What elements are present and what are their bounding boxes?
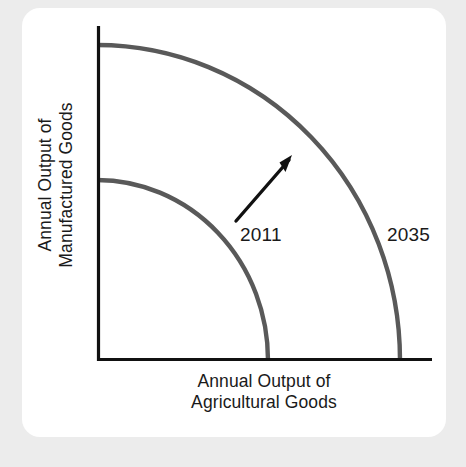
frontier-curve-2011 xyxy=(97,180,268,360)
x-axis-label: Annual Output of Agricultural Goods xyxy=(97,371,431,413)
y-axis-label-container: Annual Output of Manufactured Goods xyxy=(35,30,83,340)
growth-arrow-icon xyxy=(236,155,292,221)
curve-label-2035: 2035 xyxy=(387,224,430,246)
y-axis-label: Annual Output of Manufactured Goods xyxy=(35,30,77,340)
curve-label-2011: 2011 xyxy=(240,224,282,246)
figure-root: 2011 2035 Annual Output of Agricultural … xyxy=(0,0,466,467)
frontier-curve-2035 xyxy=(97,45,400,360)
